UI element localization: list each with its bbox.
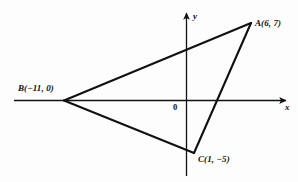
x-axis-label: x bbox=[285, 103, 290, 112]
coordinate-plane-figure: A(6, 7) B(−11, 0) C(1, −5) y x 0 bbox=[0, 0, 298, 182]
point-label-a: A(6, 7) bbox=[255, 19, 281, 28]
point-label-b: B(−11, 0) bbox=[18, 84, 54, 93]
point-label-c: C(1, −5) bbox=[198, 155, 230, 164]
y-axis-label: y bbox=[193, 12, 197, 21]
origin-label: 0 bbox=[173, 103, 177, 112]
